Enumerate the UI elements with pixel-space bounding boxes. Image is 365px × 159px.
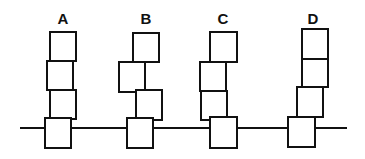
block: [133, 33, 159, 62]
stack-label: A: [58, 10, 69, 27]
stack-label: B: [141, 10, 152, 27]
block: [127, 118, 153, 148]
block: [50, 90, 76, 119]
stack-label: C: [218, 10, 229, 27]
block: [288, 117, 315, 147]
block: [47, 61, 73, 90]
block: [297, 87, 323, 117]
block: [136, 90, 162, 120]
block: [210, 32, 237, 62]
stack-a: A: [45, 10, 76, 148]
block: [302, 59, 328, 87]
block: [210, 117, 237, 148]
stack-d: D: [288, 10, 328, 147]
block: [119, 62, 145, 92]
block: [200, 62, 226, 91]
block: [302, 29, 328, 59]
block: [45, 118, 71, 148]
block: [50, 32, 76, 61]
block: [201, 91, 227, 120]
block-stacks-diagram: ABCD: [0, 0, 365, 159]
stack-label: D: [308, 10, 319, 27]
